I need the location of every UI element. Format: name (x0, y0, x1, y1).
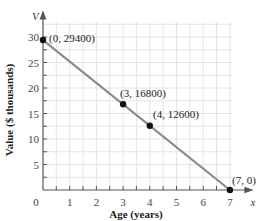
data-point-7 (227, 187, 233, 193)
x-tick-2: 2 (94, 196, 100, 208)
y-axis-title: Value ($ thousands) (3, 63, 16, 156)
y-tick-15: 15 (28, 108, 40, 120)
x-tick-0: 0 (33, 196, 39, 208)
y-tick-20: 20 (28, 82, 40, 94)
data-point-4 (147, 123, 153, 129)
grid (43, 22, 232, 190)
x-axis-arrow-icon (245, 188, 252, 193)
y-tick-5: 5 (34, 159, 40, 171)
y-axis-variable: V (32, 10, 40, 22)
annotation-7-0: (7, 0) (232, 174, 256, 187)
x-tick-5: 5 (174, 196, 180, 208)
y-tick-25: 25 (28, 57, 40, 69)
annotation-4-12600: (4, 12600) (153, 108, 199, 121)
x-tick-7: 7 (227, 196, 233, 208)
x-tick-3: 3 (120, 196, 126, 208)
x-axis-title: Age (years) (109, 208, 163, 221)
data-point-3 (120, 101, 126, 107)
depreciation-chart: 0 1 2 3 4 5 6 7 5 10 15 20 25 30 V x Age… (0, 0, 265, 221)
x-tick-1: 1 (67, 196, 73, 208)
x-axis-variable: x (250, 196, 256, 208)
annotation-0-29400: (0, 29400) (49, 32, 95, 45)
x-tick-4: 4 (147, 196, 153, 208)
y-axis-arrow-icon (41, 12, 46, 19)
annotation-3-16800: (3, 16800) (120, 87, 166, 100)
y-tick-labels: 5 10 15 20 25 30 (28, 31, 40, 171)
y-tick-30: 30 (28, 31, 40, 43)
y-tick-10: 10 (28, 133, 40, 145)
x-tick-6: 6 (200, 196, 206, 208)
x-tick-labels: 0 1 2 3 4 5 6 7 (33, 196, 233, 208)
data-point-0 (40, 37, 46, 43)
